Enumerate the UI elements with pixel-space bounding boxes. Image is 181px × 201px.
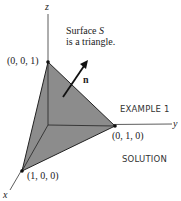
solution-heading: SOLUTION xyxy=(122,154,167,165)
point-y-intercept: (0, 1, 0) xyxy=(112,130,144,141)
y-axis-label: y xyxy=(173,118,177,129)
point-x-intercept: (1, 0, 0) xyxy=(27,170,59,181)
example-heading: EXAMPLE 1 xyxy=(120,104,169,115)
caption: Surface S is a triangle. xyxy=(66,25,115,47)
point-z-intercept: (0, 0, 1) xyxy=(7,55,39,66)
normal-vector-label: n xyxy=(83,74,89,85)
z-axis-label: z xyxy=(45,1,49,12)
diagram: z y x Surface S is a triangle. (0, 0, 1)… xyxy=(0,0,181,201)
x-axis-label: x xyxy=(3,189,7,200)
